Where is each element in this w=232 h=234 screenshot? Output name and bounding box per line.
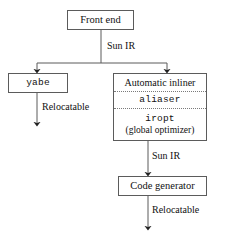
node-aliaser-section: aliaser — [114, 91, 206, 108]
node-yabe: yabe — [8, 73, 68, 93]
node-front-end: Front end — [67, 10, 134, 30]
edge-label-relocatable-yabe: Relocatable — [42, 101, 89, 112]
node-automatic-inliner-header: Automatic inliner — [114, 74, 206, 91]
node-iropt-sublabel: (global optimizer) — [126, 125, 195, 136]
node-iropt-label: iropt — [145, 114, 175, 125]
node-automatic-inliner: Automatic inliner aliaser iropt (global … — [113, 73, 207, 141]
node-automatic-inliner-label: Automatic inliner — [125, 77, 196, 89]
node-iropt-section: iropt (global optimizer) — [114, 108, 206, 140]
node-yabe-label: yabe — [26, 78, 50, 89]
edge-label-relocatable-code-generator: Relocatable — [152, 204, 199, 215]
diagram-canvas: Front end yabe Automatic inliner aliaser… — [0, 0, 232, 234]
edge-label-sun-ir-top: Sun IR — [107, 40, 135, 51]
node-front-end-label: Front end — [80, 14, 121, 26]
edge-label-sun-ir-middle: Sun IR — [152, 150, 180, 161]
node-code-generator: Code generator — [118, 176, 207, 196]
node-aliaser-label: aliaser — [139, 95, 180, 106]
node-code-generator-label: Code generator — [130, 180, 194, 192]
